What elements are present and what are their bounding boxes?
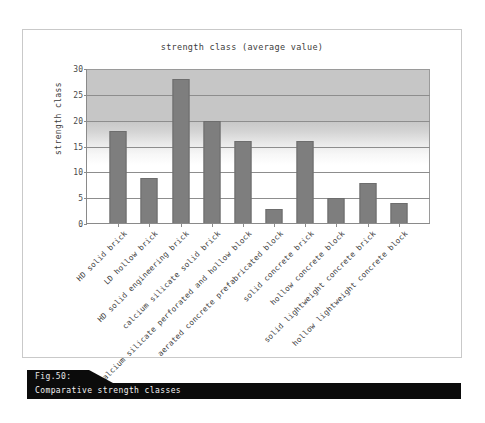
y-tick-mark <box>84 224 87 225</box>
figure-caption-bar: Fig.50: Comparative strength classes <box>27 370 461 399</box>
bar[interactable] <box>359 183 376 224</box>
bar-slot: HD solid engineering brick <box>165 69 196 224</box>
x-tick-mark <box>118 224 119 227</box>
figure-caption-text: Comparative strength classes <box>35 386 181 395</box>
bar-slot: LD hollow brick <box>134 69 165 224</box>
x-tick-mark <box>274 224 275 227</box>
bar[interactable] <box>234 141 251 224</box>
x-tick-mark <box>212 224 213 227</box>
x-axis-line <box>87 223 430 224</box>
figure-frame: strength class (average value) strength … <box>22 29 462 358</box>
x-tick-label: solid lightweight concrete brick <box>263 229 378 344</box>
y-axis-title: strength class <box>54 71 63 167</box>
x-tick-mark <box>336 224 337 227</box>
bar-slot: hollow concrete block <box>321 69 352 224</box>
x-tick-label: LD hollow brick <box>102 229 160 287</box>
y-tick-label: 25 <box>73 90 83 99</box>
bar[interactable] <box>328 198 345 224</box>
x-tick-mark <box>368 224 369 227</box>
caption-tab-wedge <box>89 370 113 383</box>
x-tick-label: hollow lightweight concrete block <box>290 229 409 348</box>
x-tick-mark <box>243 224 244 227</box>
bar[interactable] <box>203 121 220 224</box>
bars-layer: HD solid brickLD hollow brickHD solid en… <box>87 69 430 224</box>
y-tick-label: 30 <box>73 65 83 74</box>
bar[interactable] <box>390 203 407 224</box>
bar-slot: aerated concrete prefabricated block <box>259 69 290 224</box>
x-tick-label: HD solid brick <box>74 229 128 283</box>
x-tick-mark <box>305 224 306 227</box>
y-tick-label: 5 <box>78 194 83 203</box>
y-tick-label: 0 <box>78 220 83 229</box>
bar-slot: hollow lightweight concrete block <box>383 69 414 224</box>
bar-slot: calcium silicate solid brick <box>196 69 227 224</box>
bar-slot: calcium silicate perforated and hollow b… <box>227 69 258 224</box>
y-tick-label: 10 <box>73 168 83 177</box>
x-tick-mark <box>181 224 182 227</box>
bar[interactable] <box>110 131 127 224</box>
bar[interactable] <box>141 178 158 225</box>
chart-title: strength class (average value) <box>23 42 461 52</box>
figure-number: Fig.50: <box>35 372 72 381</box>
bar[interactable] <box>297 141 314 224</box>
plot-area: 051015202530 HD solid brickLD hollow bri… <box>86 69 430 224</box>
bar[interactable] <box>172 79 189 224</box>
bar-slot: solid lightweight concrete brick <box>352 69 383 224</box>
x-tick-mark <box>399 224 400 227</box>
x-tick-mark <box>149 224 150 227</box>
bar[interactable] <box>266 209 283 225</box>
bar-slot: HD solid brick <box>103 69 134 224</box>
y-tick-label: 15 <box>73 142 83 151</box>
y-tick-label: 20 <box>73 116 83 125</box>
x-tick-label: calcium silicate perforated and hollow b… <box>97 229 253 385</box>
bar-slot: solid concrete brick <box>290 69 321 224</box>
